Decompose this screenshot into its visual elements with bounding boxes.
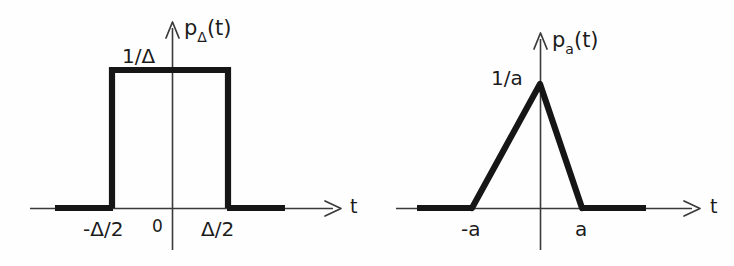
tri-function-label-main: p — [552, 28, 565, 52]
tri-tick-label-left: -a — [461, 219, 480, 239]
tri-x-axis-label: t — [710, 197, 717, 216]
rect-function-label-tail: (t) — [207, 16, 232, 40]
tri-tick-label-right: a — [575, 219, 587, 239]
tri-signal-pulse-body — [472, 84, 582, 208]
tri-function-label-tail: (t) — [574, 28, 599, 52]
tri-function-label: pa(t) — [552, 30, 599, 54]
rect-x-axis-label: t — [350, 197, 357, 216]
rect-tick-label-origin: 0 — [152, 218, 163, 235]
figure-board: pΔ(t) 1/Δ -Δ/2 0 Δ/2 t pa(t) 1/a -a a t — [0, 0, 734, 266]
rectangular-pulse-panel — [30, 22, 341, 250]
rect-function-label: pΔ(t) — [184, 18, 232, 42]
tri-function-label-subscript: a — [565, 41, 574, 57]
rect-function-label-main: p — [184, 16, 197, 40]
rect-tick-label-right: Δ/2 — [201, 219, 234, 239]
triangular-pulse-panel — [396, 33, 700, 250]
rect-function-label-subscript: Δ — [197, 29, 207, 45]
rect-signal-pulse-body — [112, 70, 228, 208]
tri-amplitude-label: 1/a — [491, 68, 523, 88]
rect-tick-label-left: -Δ/2 — [83, 219, 123, 239]
rect-amplitude-label: 1/Δ — [122, 46, 155, 66]
